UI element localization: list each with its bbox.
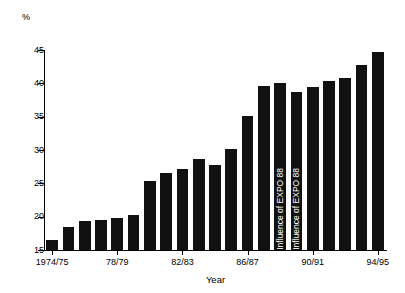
x-tick-mark <box>182 251 183 255</box>
bar <box>128 215 140 250</box>
x-tick-label: 1974/75 <box>36 257 69 267</box>
x-tick-label: 82/83 <box>171 257 194 267</box>
y-tick-label: 35 <box>10 112 44 121</box>
y-tick-label: 15 <box>10 246 44 255</box>
y-tick-label: 20 <box>10 212 44 221</box>
bar <box>95 220 107 250</box>
bar: Influence of EXPO 88 <box>274 83 286 250</box>
bar <box>111 218 123 250</box>
x-tick-mark <box>117 251 118 255</box>
bar <box>209 165 221 250</box>
x-tick-label: 94/95 <box>367 257 390 267</box>
x-tick-mark <box>248 251 249 255</box>
y-tick-label: 45 <box>10 46 44 55</box>
bar <box>79 221 91 250</box>
y-tick-label: 40 <box>10 79 44 88</box>
bar <box>372 52 384 250</box>
bar <box>63 227 75 250</box>
bar <box>177 169 189 250</box>
bar <box>307 87 319 250</box>
bar <box>356 65 368 250</box>
x-tick-label: 90/91 <box>301 257 324 267</box>
bar <box>258 86 270 250</box>
x-tick-mark <box>378 251 379 255</box>
bar <box>160 173 172 250</box>
bar <box>339 78 351 250</box>
x-tick-mark <box>52 251 53 255</box>
bar <box>46 240 58 250</box>
cropped-title-remnant <box>60 0 300 3</box>
x-tick-label: 86/87 <box>236 257 259 267</box>
bar-annotation-label: Influence of EXPO 88 <box>276 168 285 250</box>
x-tick-label: 78/79 <box>106 257 129 267</box>
x-axis-title: Year <box>44 274 387 285</box>
y-tick-label: 25 <box>10 179 44 188</box>
bar <box>323 81 335 250</box>
y-tick-label: 30 <box>10 146 44 155</box>
bar <box>225 149 237 250</box>
y-axis-ticks: 15202530354045 <box>0 0 44 293</box>
bar <box>242 116 254 250</box>
bar <box>144 181 156 250</box>
bar-chart: % 15202530354045 Influence of EXPO 88Inf… <box>0 0 405 293</box>
bar <box>193 159 205 250</box>
bar-annotation-label: Influence of EXPO 88 <box>292 168 301 250</box>
x-axis-line <box>44 250 387 251</box>
x-tick-mark <box>313 251 314 255</box>
plot-area: Influence of EXPO 88Influence of EXPO 88 <box>44 50 386 250</box>
bar: Influence of EXPO 88 <box>291 92 303 250</box>
